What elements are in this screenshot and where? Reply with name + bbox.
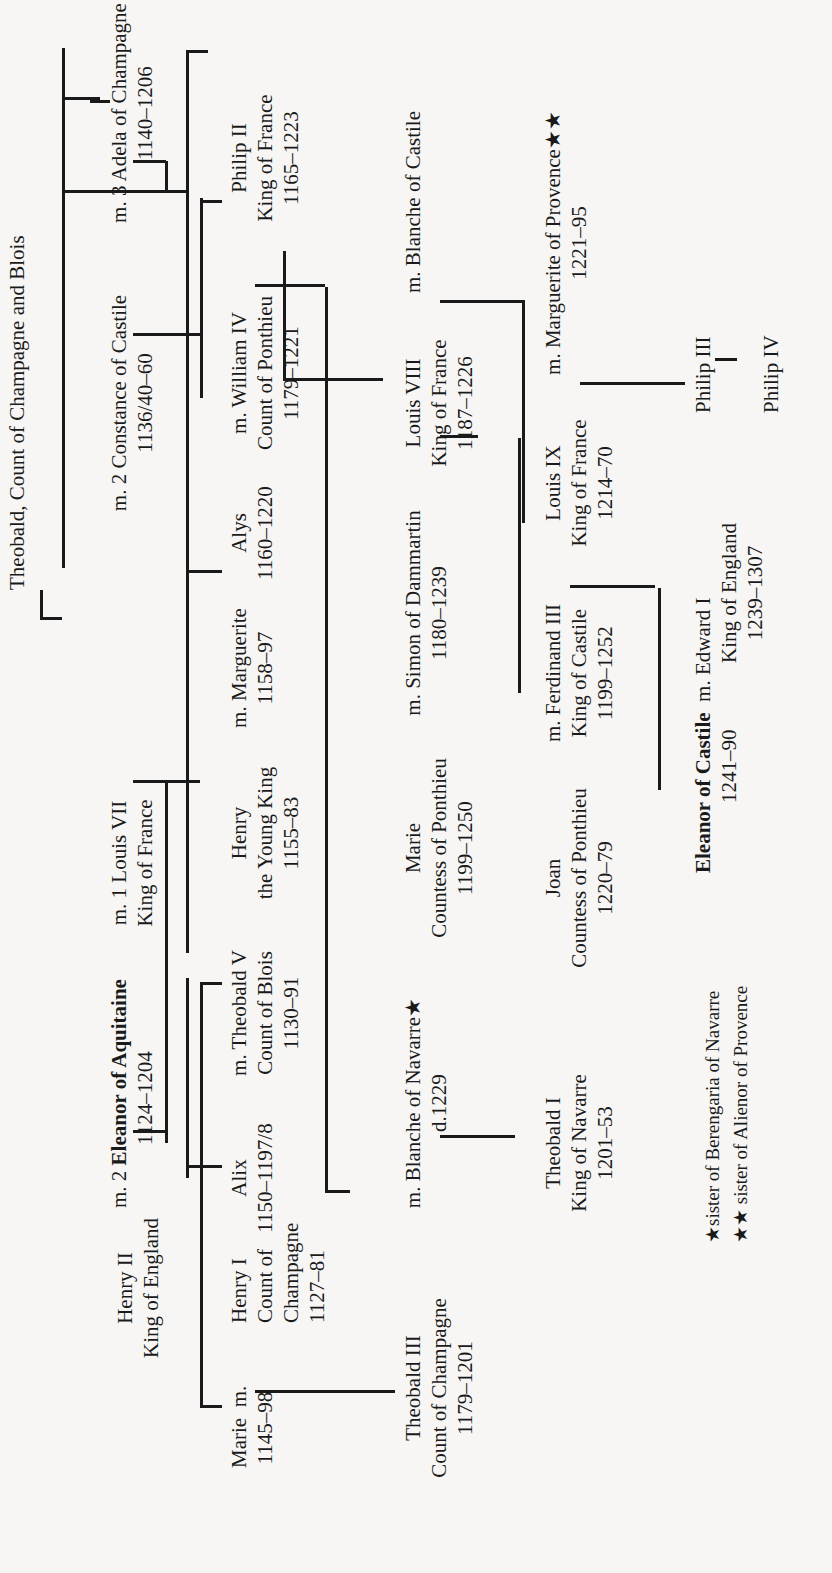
marriage-connector (570, 586, 655, 589)
person-marguerite-of-provence: m. Marguerite of Provence★★ 1221–95 (540, 83, 592, 403)
person-theobald-v: m. Theobald V Count of Blois 1130–91 (226, 923, 304, 1103)
descent-line (325, 1191, 350, 1194)
footnote-1: ★sister of Berengaria of Navarre (700, 991, 726, 1243)
person-blanche-of-navarre: m. Blanche of Navarre★ d.1229 (400, 973, 452, 1233)
marriage-connector (133, 334, 200, 337)
marriage-connector (255, 285, 325, 288)
person-eleanor-of-aquitaine: m. 2 Eleanor of Aquitaine 1124–1204 (106, 988, 158, 1208)
root-connector (40, 618, 62, 621)
person-marie: Marie m. 1145–98 (226, 1388, 278, 1468)
marriage-connector (133, 781, 200, 784)
footnote-2: ★★ sister of Alienor of Provence (728, 986, 754, 1243)
marriage-connector (440, 1136, 515, 1139)
person-marie-countess-of-ponthieu: Marie Countess of Ponthieu 1199–1250 (400, 743, 478, 953)
root-theobald: Theobald, Count of Champagne and Blois (4, 235, 30, 590)
sibling-bar (186, 978, 189, 1178)
descent-line (658, 588, 661, 790)
descent-line (200, 201, 222, 204)
person-louis-viii: Louis VIII King of France 1187–1226 (400, 313, 478, 493)
descent-line (200, 1406, 222, 1409)
marriage-connector (440, 301, 525, 304)
marriage-connector (255, 1391, 395, 1394)
marriage-connector (165, 783, 168, 1143)
person-louis-vii: m. 1 Louis VII King of France (106, 778, 158, 948)
descent-line (518, 438, 521, 693)
sibling-bar (186, 53, 189, 953)
person-alys: Alys 1160–1220 (226, 473, 278, 593)
marriage-connector (165, 161, 168, 193)
person-blanche-of-castile: m. Blanche of Castile (400, 111, 426, 293)
marriage-connector (440, 436, 478, 439)
person-marguerite: m. Marguerite 1158–97 (226, 593, 278, 743)
descent-line (186, 571, 222, 574)
person-joan: Joan Countess of Ponthieu 1220–79 (540, 778, 618, 978)
marriage-connector (133, 161, 166, 164)
person-theobald-i: Theobald I King of Navarre 1201–53 (540, 1053, 618, 1233)
family-tree-diagram: Theobald, Count of Champagne and Blois H… (0, 0, 832, 1573)
person-simon-of-dammartin: m. Simon of Dammartin 1180–1239 (400, 483, 452, 743)
descent-line (715, 359, 737, 362)
root-connector (62, 48, 65, 568)
descent-line (325, 287, 328, 1193)
descent-line (285, 379, 383, 382)
person-henry-young-king: Henry the Young King 1155–83 (226, 748, 304, 918)
person-william-iv: m. William IV Count of Ponthieu 1179–122… (226, 273, 304, 473)
person-henry-ii: Henry II King of England (112, 1208, 164, 1368)
marriage-connector (580, 383, 685, 386)
descent-line (186, 1166, 222, 1169)
descent-line (186, 51, 208, 54)
person-adela-of-champagne: m. 3 Adela of Champagne 1140–1206 (106, 0, 158, 233)
person-louis-ix: Louis IX King of France 1214–70 (540, 403, 618, 563)
person-edward-i: King of England 1239–1307 (716, 493, 768, 693)
person-philip-iii: Philip III (690, 337, 716, 413)
descent-line (200, 983, 222, 986)
marriage-connector (133, 1131, 166, 1134)
person-constance-of-castile: m. 2 Constance of Castile 1136/40–60 (106, 253, 158, 553)
person-alix: Alix 1150–1197/8 (226, 1113, 278, 1243)
descent-line (283, 251, 286, 381)
person-ferdinand-iii: m. Ferdinand III King of Castile 1199–12… (540, 573, 618, 773)
sibling-bar (200, 983, 203, 1408)
sibling-bar (200, 198, 203, 398)
root-connector (40, 590, 43, 620)
person-theobald-iii: Theobald III Count of Champagne 1179–120… (400, 1293, 478, 1483)
person-philip-iv: Philip IV (758, 335, 784, 413)
descent-line (522, 303, 525, 523)
person-philip-ii: Philip II King of France 1165–1223 (226, 73, 304, 243)
